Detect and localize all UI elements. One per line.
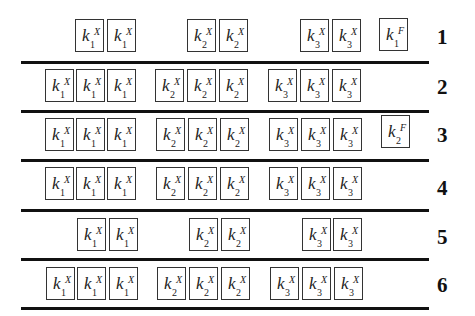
key-box: k2X — [221, 218, 250, 251]
key-superscript: X — [95, 171, 101, 188]
key-base: k — [309, 226, 317, 243]
key-box: k2X — [220, 167, 249, 200]
key-base: k — [276, 175, 284, 192]
key-box: k3X — [269, 118, 298, 151]
key-base: k — [388, 123, 396, 140]
key-box: k2X — [221, 267, 250, 300]
final-key-box: k2F — [381, 115, 410, 148]
key-base: k — [228, 226, 236, 243]
key-base: k — [194, 77, 202, 94]
key-base: k — [307, 77, 315, 94]
key-superscript: X — [288, 122, 294, 139]
key-superscript: X — [95, 122, 101, 139]
key-superscript: X — [128, 222, 134, 239]
key-box: k2X — [188, 167, 217, 200]
key-superscript: X — [64, 122, 70, 139]
key-superscript: X — [351, 73, 357, 90]
key-base: k — [114, 77, 122, 94]
row-divider — [21, 307, 429, 310]
key-box: k2X — [187, 69, 216, 102]
key-base: k — [82, 27, 90, 44]
key-base: k — [309, 275, 317, 292]
key-base: k — [114, 175, 122, 192]
key-box: k3X — [333, 218, 362, 251]
key-superscript: X — [64, 171, 70, 188]
key-box: k1X — [109, 267, 138, 300]
key-base: k — [195, 175, 203, 192]
key-base: k — [308, 175, 316, 192]
key-box: k3X — [302, 267, 331, 300]
key-superscript: X — [126, 23, 132, 40]
key-base: k — [339, 77, 347, 94]
key-superscript: X — [319, 73, 325, 90]
key-box: k3X — [268, 69, 297, 102]
key-base: k — [340, 175, 348, 192]
key-superscript: X — [239, 171, 245, 188]
key-box: k1X — [76, 118, 105, 151]
key-box: k1X — [107, 167, 136, 200]
row-number: 5 — [437, 227, 448, 248]
key-superscript: X — [95, 73, 101, 90]
key-superscript: X — [175, 122, 181, 139]
key-box: k1X — [109, 218, 138, 251]
key-box: k2X — [189, 218, 218, 251]
key-superscript: X — [208, 222, 214, 239]
key-box: k2X — [156, 118, 185, 151]
key-base: k — [163, 126, 171, 143]
key-superscript: X — [321, 222, 327, 239]
key-base: k — [276, 126, 284, 143]
key-base: k — [83, 175, 91, 192]
key-superscript: X — [126, 73, 132, 90]
row-number: 1 — [437, 27, 448, 48]
key-superscript: X — [320, 122, 326, 139]
key-box: k2X — [220, 118, 249, 151]
key-base: k — [84, 275, 92, 292]
key-base: k — [227, 126, 235, 143]
key-box: k2X — [155, 69, 184, 102]
key-base: k — [114, 126, 122, 143]
key-base: k — [340, 226, 348, 243]
key-box: k3X — [332, 19, 361, 52]
key-base: k — [162, 77, 170, 94]
key-box: k1X — [46, 267, 75, 300]
key-superscript: X — [289, 271, 295, 288]
key-superscript: X — [320, 171, 326, 188]
key-base: k — [277, 275, 285, 292]
key-superscript: X — [126, 171, 132, 188]
key-superscript: X — [353, 271, 359, 288]
key-superscript: X — [96, 271, 102, 288]
row-divider — [21, 61, 429, 64]
row-divider — [21, 110, 429, 113]
key-superscript: X — [351, 23, 357, 40]
key-box: k1X — [45, 69, 74, 102]
key-box: k3X — [333, 167, 362, 200]
key-base: k — [196, 275, 204, 292]
key-box: k1X — [107, 69, 136, 102]
key-box: k3X — [302, 218, 331, 251]
key-box: k3X — [332, 69, 361, 102]
key-superscript: X — [64, 73, 70, 90]
key-superscript: X — [207, 122, 213, 139]
key-base: k — [228, 275, 236, 292]
key-superscript: X — [206, 23, 212, 40]
row-number: 4 — [437, 178, 448, 199]
row-divider — [21, 258, 429, 261]
key-box: k1X — [75, 19, 104, 52]
key-box: k3X — [301, 118, 330, 151]
key-base: k — [341, 275, 349, 292]
key-base: k — [114, 27, 122, 44]
final-key-box: k1F — [379, 18, 408, 51]
key-box: k3X — [269, 167, 298, 200]
key-superscript: X — [94, 23, 100, 40]
key-box: k2X — [187, 19, 216, 52]
key-box: k1X — [107, 118, 136, 151]
key-superscript: X — [240, 271, 246, 288]
key-base: k — [308, 126, 316, 143]
row-number: 3 — [437, 125, 448, 146]
key-base: k — [195, 126, 203, 143]
key-base: k — [275, 77, 283, 94]
key-base: k — [196, 226, 204, 243]
key-base: k — [52, 175, 60, 192]
key-superscript: X — [96, 222, 102, 239]
key-base: k — [83, 126, 91, 143]
